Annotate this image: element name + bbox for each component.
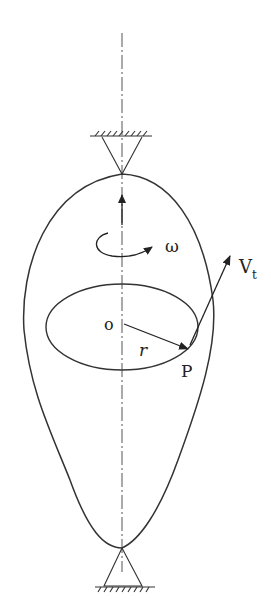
radius-arrow — [124, 324, 188, 349]
tangential-velocity-arrow — [190, 256, 230, 345]
rotating-body-diagram: ω o r P V t — [0, 0, 271, 612]
bottom-pin-support — [95, 548, 155, 592]
omega-label: ω — [165, 236, 179, 256]
top-pin-support — [90, 131, 152, 174]
velocity-subscript: t — [252, 268, 257, 282]
radius-label: r — [139, 340, 148, 360]
velocity-label: V — [238, 256, 253, 277]
origin-label: o — [104, 315, 114, 334]
point-label: P — [181, 361, 192, 381]
rotation-arrow-icon — [96, 233, 152, 257]
